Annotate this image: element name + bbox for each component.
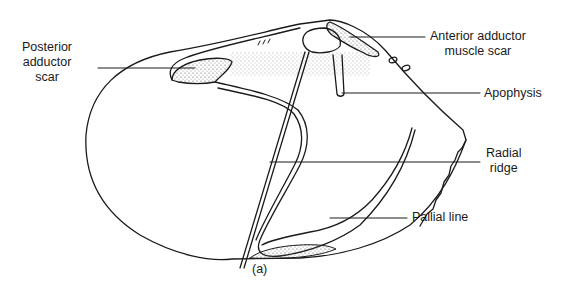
label-pallial-line: Pallial line [412,210,468,225]
label-radial-ridge: Radial ridge [486,146,521,176]
anterior-adductor-scar [327,22,379,57]
shell-diagram: Posterior adductor scar Anterior adducto… [0,0,581,291]
label-line: Radial [486,146,521,161]
label-line: Anterior adductor [430,29,526,44]
label-line: muscle scar [430,44,526,59]
posterior-adductor-scar [172,58,232,83]
label-line: adductor [22,55,72,70]
label-line: Posterior [22,40,72,55]
figure-caption: (a) [252,262,267,277]
label-line: scar [22,70,72,85]
label-apophysis: Apophysis [484,86,542,101]
label-anterior-adductor-muscle-scar: Anterior adductor muscle scar [430,29,526,59]
label-line: ridge [486,161,521,176]
pallial-line [262,128,412,245]
label-posterior-adductor-scar: Posterior adductor scar [22,40,72,85]
